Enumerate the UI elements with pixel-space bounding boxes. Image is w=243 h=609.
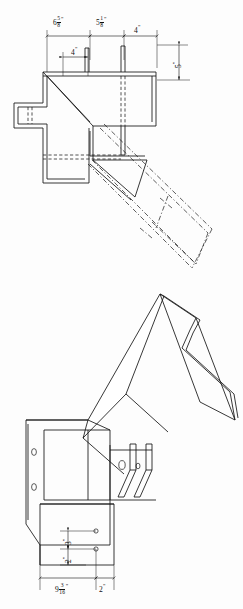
- technical-drawing-canvas: .sl { fill:none; stroke:#141414; stroke-…: [0, 0, 243, 609]
- iso-stiffener-ribs: [118, 444, 152, 497]
- dimension-label-5-1-8: 518": [96, 16, 106, 28]
- dimension-label-5in-vertical: 5": [172, 62, 182, 69]
- phantom-rotated-beam: [88, 124, 212, 268]
- iso-upper-channel: [83, 294, 238, 474]
- dimension-label-6-5-8: 658": [53, 16, 63, 28]
- iso-web-section: [44, 430, 156, 500]
- dimension-label-9-3-16: 9316": [55, 583, 68, 595]
- hidden-lines-plan: [28, 76, 125, 159]
- dimension-label-4in-inner: 4": [71, 46, 78, 56]
- plan-body-outline: [14, 72, 156, 183]
- top-dimension-chain: [47, 30, 157, 72]
- drawing-sheet: .sl { fill:none; stroke:#141414; stroke-…: [0, 0, 243, 609]
- skewed-beam-visible-edges: [43, 72, 147, 200]
- lower-view-group: [26, 294, 238, 590]
- dimension-label-4in-outer: 4": [134, 24, 141, 34]
- top-flange-outline: [43, 46, 156, 76]
- dimension-label-2in-vertical: 2": [62, 557, 72, 564]
- dimension-label-2in-horizontal: 2": [99, 583, 106, 593]
- dimension-label-3in-vertical: 3": [62, 539, 72, 546]
- iso-base-plate: [40, 504, 114, 565]
